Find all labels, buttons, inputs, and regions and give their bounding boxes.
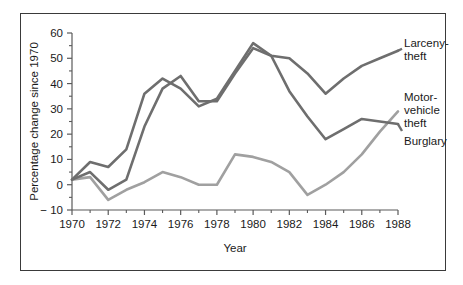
y-tick-label: 30 bbox=[50, 103, 63, 115]
x-tick-label: 1986 bbox=[349, 218, 375, 230]
x-axis-title: Year bbox=[223, 242, 246, 254]
y-tick-label: 10 bbox=[50, 153, 63, 165]
series-line-motor-vehicle-theft bbox=[72, 43, 398, 180]
series-label-motor-vehicle-theft-line2: vehicle bbox=[404, 104, 440, 116]
x-tick-label: 1982 bbox=[277, 218, 303, 230]
x-tick-label: 1980 bbox=[240, 218, 266, 230]
larceny-theft-leader-line bbox=[398, 49, 402, 51]
series-label-larceny-theft-line2: theft bbox=[404, 50, 427, 62]
x-tick-label: 1970 bbox=[59, 218, 85, 230]
y-tick-label: 50 bbox=[50, 52, 63, 64]
series-label-motor-vehicle-theft: Motor- bbox=[404, 91, 437, 103]
x-tick-label: 1988 bbox=[385, 218, 411, 230]
y-tick-label: − 10 bbox=[40, 204, 63, 216]
series-label-larceny-theft: Larceny- bbox=[404, 37, 449, 49]
chart-figure: − 10010203040506019701972197419761978198… bbox=[0, 0, 463, 285]
x-tick-label: 1976 bbox=[168, 218, 194, 230]
series-label-burglary: Burglary bbox=[404, 135, 447, 147]
series-label-motor-vehicle-theft-line3: theft bbox=[404, 117, 427, 129]
x-tick-label: 1974 bbox=[132, 218, 158, 230]
x-tick-label: 1972 bbox=[95, 218, 121, 230]
line-chart: − 10010203040506019701972197419761978198… bbox=[0, 0, 463, 285]
y-tick-label: 20 bbox=[50, 128, 63, 140]
y-axis-title: Percentage change since 1970 bbox=[28, 42, 40, 201]
y-tick-label: 0 bbox=[57, 179, 63, 191]
x-tick-label: 1984 bbox=[313, 218, 339, 230]
y-tick-label: 60 bbox=[50, 27, 63, 39]
y-tick-label: 40 bbox=[50, 78, 63, 90]
motor-vehicle-theft-leader-line bbox=[398, 124, 402, 131]
x-tick-label: 1978 bbox=[204, 218, 230, 230]
